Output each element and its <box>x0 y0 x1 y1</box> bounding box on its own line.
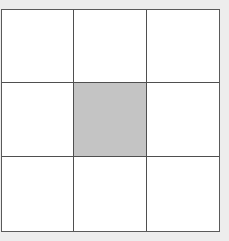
diagram-canvas <box>0 0 229 241</box>
grid-cell-shaded <box>74 83 147 157</box>
grid-cell <box>2 83 74 157</box>
grid-cell <box>147 83 219 157</box>
grid-cell <box>2 10 74 83</box>
grid-cell <box>2 157 74 231</box>
grid-cell <box>74 10 147 83</box>
grid-cell <box>147 10 219 83</box>
grid-cell <box>74 157 147 231</box>
grid-cell <box>147 157 219 231</box>
three-by-three-grid <box>1 9 220 232</box>
